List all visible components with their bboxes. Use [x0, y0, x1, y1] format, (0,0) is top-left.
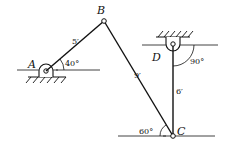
pin-c	[171, 134, 176, 139]
length-label-cd: 6′	[176, 87, 183, 96]
point-label-c: C	[177, 125, 186, 138]
angle-label-d: 90°	[190, 57, 204, 66]
angle-arc-c	[160, 125, 166, 136]
linkage-diagram: A B C D 5′ 9′ 6′ 40° 90° 60°	[0, 0, 225, 148]
angle-arc-a	[60, 59, 64, 70]
length-label-ab: 5′	[72, 37, 79, 46]
length-label-bc: 9′	[134, 71, 141, 80]
angle-label-c: 60°	[139, 127, 153, 136]
point-label-b: B	[96, 4, 105, 17]
angle-label-a: 40°	[65, 59, 79, 68]
point-label-a: A	[27, 58, 36, 71]
pin-b	[102, 19, 107, 24]
point-label-d: D	[151, 51, 161, 64]
ground-support-d	[142, 31, 218, 51]
